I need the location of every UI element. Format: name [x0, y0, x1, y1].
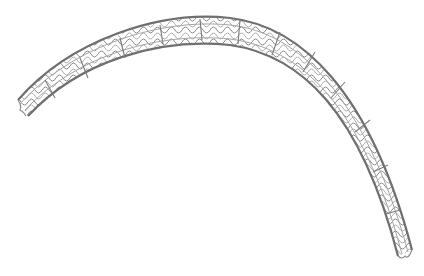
- stent-body: [18, 17, 412, 258]
- stent-illustration: [0, 0, 424, 276]
